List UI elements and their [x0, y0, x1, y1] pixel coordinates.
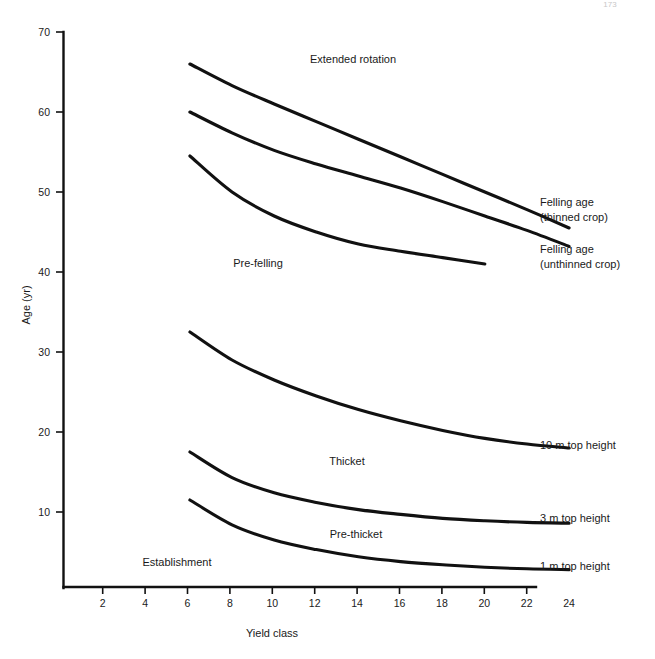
y-axis-title: Age (yr)	[20, 285, 32, 324]
series-label-3m-top-height: 3 m top height	[540, 512, 610, 524]
x-tick-label-22: 22	[521, 597, 533, 609]
x-tick-label-24: 24	[563, 597, 575, 609]
x-tick-label-4: 4	[142, 597, 148, 609]
y-tick-label-60: 60	[38, 106, 50, 118]
x-tick-label-14: 14	[351, 597, 363, 609]
y-tick-label-40: 40	[38, 266, 50, 278]
y-axis-tick-labels: 70 60 50 40 30 20 10	[38, 26, 50, 518]
zone-label-pre-felling: Pre-felling	[233, 257, 283, 269]
series-curve-felling-age-thinned-crop	[190, 64, 569, 228]
series-curves-group	[190, 64, 569, 570]
zone-label-thicket: Thicket	[329, 455, 364, 467]
x-tick-label-8: 8	[227, 597, 233, 609]
x-axis-title: Yield class	[246, 627, 299, 639]
series-label-felling-age-thinned-line1: Felling age	[540, 196, 594, 208]
x-tick-label-6: 6	[185, 597, 191, 609]
zone-label-extended-rotation: Extended rotation	[310, 53, 396, 65]
y-tick-label-20: 20	[38, 426, 50, 438]
series-label-felling-age-unthinned-line2: (unthinned crop)	[540, 258, 620, 270]
yield-class-age-chart: 173 70 60 50 40 30 20 10 Age (yr)	[0, 0, 655, 659]
series-label-1m-top-height: 1 m top height	[540, 560, 610, 572]
series-curve-3-m-top-height	[190, 452, 569, 523]
y-axis-ticks	[56, 32, 63, 512]
zone-label-pre-thicket: Pre-thicket	[330, 528, 383, 540]
figure-container: 173 70 60 50 40 30 20 10 Age (yr)	[0, 0, 655, 659]
y-tick-label-10: 10	[38, 506, 50, 518]
x-tick-label-12: 12	[309, 597, 321, 609]
y-tick-label-30: 30	[38, 346, 50, 358]
x-axis-tick-labels: 2 4 6 8 10 12 14 16 18 20 22 24	[100, 597, 575, 609]
y-tick-label-50: 50	[38, 186, 50, 198]
series-label-10m-top-height: 10 m top height	[540, 439, 616, 451]
zone-label-establishment: Establishment	[142, 556, 211, 568]
x-tick-label-10: 10	[266, 597, 278, 609]
series-curve-10-m-top-height	[190, 332, 569, 448]
x-tick-label-20: 20	[478, 597, 490, 609]
x-tick-label-16: 16	[394, 597, 406, 609]
page-number: 173	[603, 0, 617, 9]
x-tick-label-2: 2	[100, 597, 106, 609]
series-right-labels: Felling age (thinned crop) Felling age (…	[540, 196, 620, 572]
series-label-felling-age-unthinned-line1: Felling age	[540, 243, 594, 255]
series-label-felling-age-thinned-line2: (thinned crop)	[540, 211, 608, 223]
y-tick-label-70: 70	[38, 26, 50, 38]
series-curve-felling-age-unthinned-crop	[190, 112, 569, 246]
x-tick-label-18: 18	[436, 597, 448, 609]
